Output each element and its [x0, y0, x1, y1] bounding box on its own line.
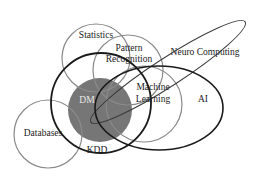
neuro-computing-label: Neuro Computing	[171, 47, 240, 57]
machine-learning-label-line1: Machine	[136, 82, 169, 92]
pattern-recognition-label-line1: Pattern	[116, 43, 143, 53]
ai-label: AI	[198, 94, 208, 104]
databases-label: Databases	[24, 128, 63, 138]
venn-diagram: Statistics Pattern Recognition Neuro Com…	[0, 0, 254, 178]
dm-label: DM	[79, 95, 95, 105]
statistics-label: Statistics	[79, 30, 114, 40]
kdd-label: KDD	[87, 145, 108, 155]
pattern-recognition-label-line2: Recognition	[106, 54, 153, 64]
machine-learning-label-line2: Learning	[136, 94, 171, 104]
